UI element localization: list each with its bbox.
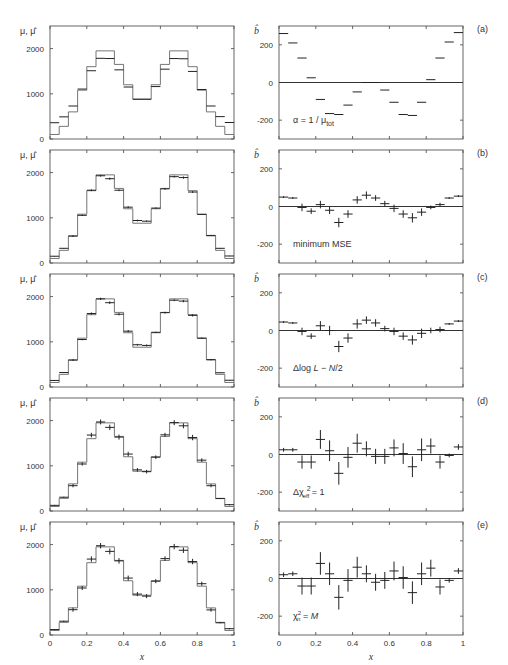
- left-frame-3: [50, 398, 234, 511]
- right-ytick-label: -200: [257, 488, 274, 497]
- right-ytick-label: 0: [269, 451, 274, 460]
- right-ytick-label: 0: [269, 327, 274, 336]
- left-ytick-label: 1000: [26, 586, 44, 595]
- right-ylabel: b̂: [254, 148, 259, 160]
- true-histogram-3: [50, 423, 234, 507]
- panel-tag-4: (e): [477, 520, 488, 530]
- left-ylabel: μ, μ̂: [20, 26, 37, 36]
- left-frame-1: [50, 150, 234, 263]
- left-frame-2: [50, 274, 234, 387]
- left-ytick-label: 2000: [26, 417, 44, 426]
- right-ytick-label: 0: [269, 79, 274, 88]
- left-ytick-label: 2000: [26, 541, 44, 550]
- left-xtick-label: 0.4: [118, 639, 130, 648]
- right-ytick-label: 200: [260, 289, 274, 298]
- right-xtick-label: 0.2: [310, 639, 322, 648]
- left-ytick-label: 2000: [26, 169, 44, 178]
- right-ylabel: b̂: [254, 396, 259, 408]
- panel-annotation-2: Δlog L − N/2: [293, 363, 343, 373]
- left-ytick-label: 0: [40, 507, 45, 516]
- left-ytick-label: 0: [40, 631, 45, 640]
- left-xlabel: x: [139, 651, 145, 662]
- right-xtick-label: 1: [461, 639, 466, 648]
- left-ytick-label: 2000: [26, 45, 44, 54]
- left-ytick-label: 1000: [26, 338, 44, 347]
- right-ytick-label: -200: [257, 612, 274, 621]
- left-ytick-label: 0: [40, 383, 45, 392]
- left-frame-4: [50, 522, 234, 635]
- right-ytick-label: -200: [257, 364, 274, 373]
- right-ytick-label: 200: [260, 41, 274, 50]
- left-ylabel: μ, μ̂: [20, 398, 37, 408]
- left-xtick-label: 0.2: [81, 639, 93, 648]
- panel-annotation-4: χ2n = M: [293, 610, 319, 622]
- right-xlabel: x: [368, 651, 374, 662]
- left-ytick-label: 1000: [26, 90, 44, 99]
- right-xtick-label: 0: [277, 639, 282, 648]
- right-ytick-label: 200: [260, 537, 274, 546]
- panel-tag-0: (a): [477, 24, 488, 34]
- right-ylabel: b̂: [254, 24, 259, 36]
- right-xtick-label: 0.6: [384, 639, 396, 648]
- right-ytick-label: 0: [269, 203, 274, 212]
- true-histogram-4: [50, 547, 234, 631]
- right-ytick-label: 200: [260, 413, 274, 422]
- right-ylabel: b̂: [254, 520, 259, 532]
- left-xtick-label: 0.6: [155, 639, 167, 648]
- left-frame-0: [50, 26, 234, 139]
- panel-annotation-3: Δχ2eff = 1: [293, 485, 324, 499]
- panel-tag-3: (d): [477, 396, 488, 406]
- right-ytick-label: 200: [260, 165, 274, 174]
- left-xtick-label: 0: [48, 639, 53, 648]
- right-ytick-label: -200: [257, 240, 274, 249]
- panel-annotation-0: α = 1 / μtot: [293, 115, 334, 127]
- right-ytick-label: -200: [257, 116, 274, 125]
- panel-tag-1: (b): [477, 148, 488, 158]
- left-ylabel: μ, μ̂: [20, 150, 37, 160]
- true-histogram-0: [50, 51, 234, 135]
- right-ytick-label: 0: [269, 575, 274, 584]
- left-ytick-label: 1000: [26, 214, 44, 223]
- panel-tag-2: (c): [477, 272, 488, 282]
- left-xtick-label: 1: [232, 639, 237, 648]
- left-xtick-label: 0.8: [192, 639, 204, 648]
- true-histogram-2: [50, 299, 234, 383]
- left-ylabel: μ, μ̂: [20, 522, 37, 532]
- left-ytick-label: 1000: [26, 462, 44, 471]
- true-histogram-1: [50, 175, 234, 259]
- left-ytick-label: 2000: [26, 293, 44, 302]
- right-ylabel: b̂: [254, 272, 259, 284]
- left-ytick-label: 0: [40, 259, 45, 268]
- right-xtick-label: 0.8: [421, 639, 433, 648]
- panel-annotation-1: minimum MSE: [293, 239, 352, 249]
- left-ytick-label: 0: [40, 135, 45, 144]
- right-xtick-label: 0.4: [347, 639, 359, 648]
- figure-canvas: 010002000μ, μ̂-2000200b̂(a)α = 1 / μtot0…: [0, 0, 508, 665]
- left-ylabel: μ, μ̂: [20, 274, 37, 284]
